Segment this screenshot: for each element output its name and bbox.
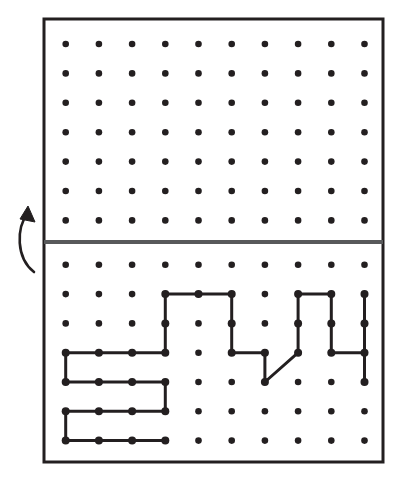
lower-grid-dot (228, 408, 235, 415)
upper-grid-dot (361, 158, 368, 165)
polyline-vertex-dot (361, 319, 369, 327)
upper-grid-dot (328, 70, 335, 77)
upper-grid-dot (295, 188, 302, 195)
upper-grid-dot (96, 158, 103, 165)
lower-grid-dot (195, 320, 202, 327)
upper-grid-dot (162, 129, 169, 136)
polyline-vertex-dot (161, 407, 169, 415)
upper-grid-dot (129, 100, 136, 107)
upper-grid-dot (228, 158, 235, 165)
upper-grid-dot (195, 188, 202, 195)
upper-grid-dot (162, 217, 169, 224)
polyline-vertex-dot (62, 437, 70, 445)
lower-grid-dot (295, 379, 302, 386)
polyline-vertex-dot (62, 378, 70, 386)
lower-grid-dot (262, 437, 269, 444)
upper-grid-dot (162, 188, 169, 195)
polyline-vertex-dot (327, 319, 335, 327)
upper-grid-dot (328, 188, 335, 195)
polyline-vertex-dot (327, 290, 335, 298)
lower-grid-dot (295, 262, 302, 269)
lower-grid-dot (62, 291, 69, 298)
lower-grid-dot (195, 437, 202, 444)
upper-grid-dot (195, 158, 202, 165)
lower-grid-dot (262, 262, 269, 269)
upper-grid-dot (262, 158, 269, 165)
upper-grid-dot (195, 100, 202, 107)
dot-grid-fold-figure (0, 0, 405, 493)
lower-grid-dot (361, 262, 368, 269)
lower-grid-dot (328, 379, 335, 386)
polyline-vertex-dot (361, 349, 369, 357)
lower-grid-dot (262, 408, 269, 415)
lower-grid-dot (328, 437, 335, 444)
polyline-vertex-dot (228, 290, 236, 298)
upper-grid-dot (162, 41, 169, 48)
upper-grid-dot (228, 188, 235, 195)
lower-grid-dot (96, 291, 103, 298)
upper-grid-dot (162, 70, 169, 77)
upper-grid-dot (295, 217, 302, 224)
polyline-vertex-dot (294, 349, 302, 357)
upper-grid-dot (228, 100, 235, 107)
polyline-vertex-dot (95, 349, 103, 357)
upper-grid-dot (129, 41, 136, 48)
lower-grid-dot (328, 408, 335, 415)
upper-grid-dot (361, 70, 368, 77)
lower-grid-dot (195, 349, 202, 356)
upper-grid-dot (62, 188, 69, 195)
polyline-vertex-dot (95, 378, 103, 386)
upper-grid-dot (262, 100, 269, 107)
upper-grid-dot (162, 100, 169, 107)
upper-grid-dot (62, 158, 69, 165)
lower-grid-dot (262, 320, 269, 327)
polyline-vertex-dot (128, 349, 136, 357)
upper-grid-dot (195, 217, 202, 224)
upper-grid-dot (328, 217, 335, 224)
polyline-vertex-dot (62, 349, 70, 357)
lower-grid-dot (96, 262, 103, 269)
upper-grid-dot (328, 41, 335, 48)
polyline-vertex-dot (95, 407, 103, 415)
lower-grid-dot (228, 262, 235, 269)
upper-grid-dot (96, 129, 103, 136)
upper-grid-dot (62, 100, 69, 107)
upper-grid-dot (96, 70, 103, 77)
upper-grid-dot (96, 217, 103, 224)
upper-grid-dot (228, 41, 235, 48)
lower-grid-dot (295, 408, 302, 415)
upper-grid-dot (62, 217, 69, 224)
upper-grid-dot (361, 41, 368, 48)
lower-grid-dot (129, 320, 136, 327)
lower-grid-dot (361, 437, 368, 444)
lower-grid-dot (162, 262, 169, 269)
upper-grid-dot (262, 188, 269, 195)
upper-grid-dot (228, 129, 235, 136)
lower-grid-dot (62, 262, 69, 269)
lower-grid-dot (195, 408, 202, 415)
upper-grid-dot (262, 217, 269, 224)
polyline-vertex-dot (128, 437, 136, 445)
lower-grid-dot (228, 437, 235, 444)
upper-grid-dot (129, 158, 136, 165)
lower-grid-dot (195, 379, 202, 386)
polyline-vertex-dot (294, 319, 302, 327)
polyline-vertex-dot (161, 349, 169, 357)
polyline-vertex-dot (361, 378, 369, 386)
lower-grid-dot (96, 320, 103, 327)
polyline-vertex-dot (161, 290, 169, 298)
polyline-vertex-dot (161, 437, 169, 445)
upper-grid-dot (96, 188, 103, 195)
upper-grid-dot (328, 129, 335, 136)
polyline-vertex-dot (261, 349, 269, 357)
polyline-vertex-dot (128, 378, 136, 386)
lower-grid-dot (62, 320, 69, 327)
upper-grid-dot (62, 129, 69, 136)
polyline-vertex-dot (228, 349, 236, 357)
lower-grid-dot (228, 379, 235, 386)
upper-grid-dot (129, 217, 136, 224)
polyline-vertex-dot (327, 349, 335, 357)
upper-grid-dot (328, 158, 335, 165)
upper-grid-dot (295, 70, 302, 77)
upper-grid-dot (195, 129, 202, 136)
